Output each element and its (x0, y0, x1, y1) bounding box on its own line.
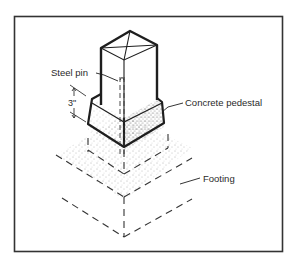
footing-leader (180, 178, 200, 184)
dimension-label: 3" (68, 98, 76, 108)
concrete-pedestal-label: Concrete pedestal (185, 97, 262, 108)
pedestal-leader (162, 103, 183, 112)
steel-pin-label: Steel pin (51, 67, 88, 78)
post-footing-diagram: 3" Steel pin Concrete pedestal Footing (0, 0, 294, 258)
footing-label: Footing (203, 173, 235, 184)
